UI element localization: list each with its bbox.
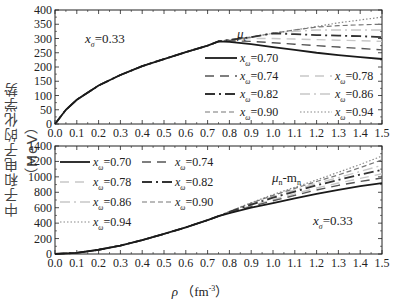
x-tick-label: 0.5 xyxy=(157,256,172,270)
x-tick-label: 0.4 xyxy=(135,256,150,270)
x-tick-label: 1.1 xyxy=(287,256,302,270)
x-tick-label: 0.8 xyxy=(222,256,237,270)
legend-label: xω=0.70 xyxy=(239,51,278,68)
y-tick-label: 200 xyxy=(34,60,52,74)
x-tick-label: 0.1 xyxy=(69,126,84,140)
x-tick-label: 0.1 xyxy=(69,256,84,270)
legend-label: xω=0.70 xyxy=(92,155,131,172)
legend-label: xω=0.94 xyxy=(334,105,373,122)
x-tick-label: 0.9 xyxy=(244,126,259,140)
x-tick-label: 0.2 xyxy=(91,126,106,140)
x-tick-label: 1.2 xyxy=(309,126,324,140)
y-tick-label: 400 xyxy=(34,3,52,17)
y-tick-label: 150 xyxy=(34,74,52,88)
legend-label: xω=0.86 xyxy=(334,87,373,104)
legend-label: xω=0.90 xyxy=(239,105,278,122)
legend-label: xω=0.82 xyxy=(174,175,213,192)
panel-bottom: 0.00.10.20.30.40.50.60.70.80.91.01.11.21… xyxy=(28,139,390,270)
annotation-x-sigma: xσ=0.33 xyxy=(84,31,125,49)
series-line xyxy=(55,39,382,125)
y-tick-label: 300 xyxy=(34,32,52,46)
y-tick-label: 1000 xyxy=(28,170,52,184)
legend-label: xω=0.78 xyxy=(334,69,373,86)
legend-label: xω=0.78 xyxy=(92,175,131,192)
x-tick-label: 1.0 xyxy=(266,126,281,140)
legend-label: xω=0.94 xyxy=(92,215,131,232)
x-tick-label: 0.5 xyxy=(157,126,172,140)
x-tick-label: 1.4 xyxy=(353,126,368,140)
y-tick-label: 100 xyxy=(34,89,52,103)
panel-top: 0.00.10.20.30.40.50.60.70.80.91.01.11.21… xyxy=(34,3,390,140)
x-axis-label: ρ （fm-3） xyxy=(171,284,229,299)
x-tick-label: 1.5 xyxy=(375,126,390,140)
x-tick-label: 1.1 xyxy=(287,126,302,140)
x-tick-label: 1.3 xyxy=(331,126,346,140)
y-tick-label: 800 xyxy=(34,185,52,199)
y-tick-label: 250 xyxy=(34,46,52,60)
x-tick-label: 0.6 xyxy=(178,126,193,140)
x-tick-label: 0.9 xyxy=(244,256,259,270)
chart-figure: 0.00.10.20.30.40.50.60.70.80.91.01.11.21… xyxy=(0,0,397,306)
y-tick-label: 1400 xyxy=(28,139,52,153)
y-tick-label: 0 xyxy=(46,247,52,261)
legend-label: xω=0.74 xyxy=(174,155,213,172)
x-tick-label: 0.6 xyxy=(178,256,193,270)
y-tick-label: 1200 xyxy=(28,154,52,168)
x-tick-label: 1.5 xyxy=(375,256,390,270)
x-tick-label: 1.3 xyxy=(331,256,346,270)
mu-n-label: μn-mn xyxy=(271,170,301,187)
x-tick-label: 0.4 xyxy=(135,126,150,140)
y-tick-label: 350 xyxy=(34,17,52,31)
x-tick-label: 0.3 xyxy=(113,126,128,140)
x-tick-label: 0.7 xyxy=(200,256,215,270)
annotation-x-sigma: xσ=0.33 xyxy=(312,213,353,231)
x-tick-label: 1.4 xyxy=(353,256,368,270)
legend-label: xω=0.90 xyxy=(174,195,213,212)
x-tick-label: 0.2 xyxy=(91,256,106,270)
legend-label: xω=0.82 xyxy=(239,87,278,104)
y-tick-label: 400 xyxy=(34,216,52,230)
x-tick-label: 0.8 xyxy=(222,126,237,140)
x-tick-label: 0.7 xyxy=(200,126,215,140)
x-tick-label: 0.3 xyxy=(113,256,128,270)
series-line xyxy=(55,41,382,124)
y-tick-label: 50 xyxy=(40,103,52,117)
legend-label: xω=0.74 xyxy=(239,69,278,86)
y-tick-label: 200 xyxy=(34,232,52,246)
y-tick-label: 600 xyxy=(34,201,52,215)
legend-label: xω=0.86 xyxy=(92,195,131,212)
mu-e-label: μe xyxy=(236,26,248,43)
plot-frame xyxy=(55,10,382,124)
x-tick-label: 1.0 xyxy=(266,256,281,270)
x-tick-label: 1.2 xyxy=(309,256,324,270)
y-tick-label: 0 xyxy=(46,117,52,131)
